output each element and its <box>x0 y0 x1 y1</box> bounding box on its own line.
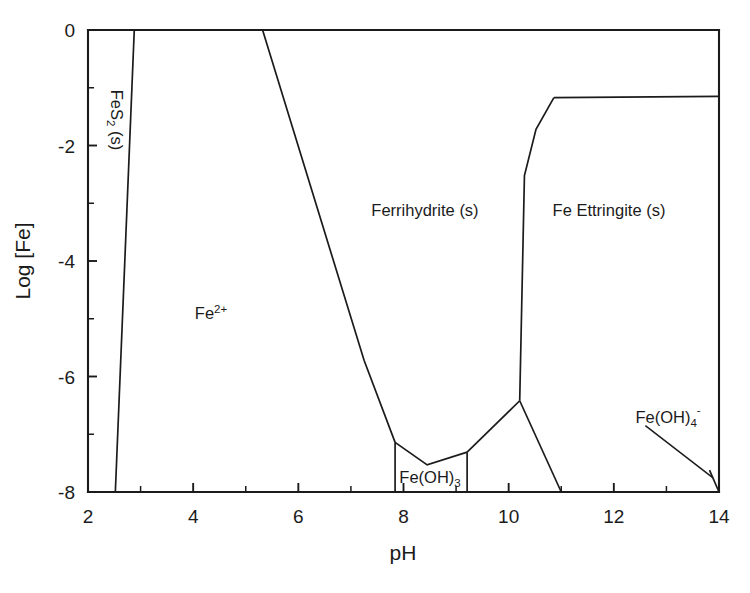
region-label-fes2: FeS2 (s) <box>105 90 126 151</box>
chart-canvas: 24681012140-2-4-6-8 pH Log [Fe] FeS2 (s)… <box>0 0 750 593</box>
ferrihydrite-feoh3-boundary <box>395 442 467 465</box>
feoh4-leader <box>645 426 712 478</box>
region-label-feoh4-superscript: - <box>697 404 701 416</box>
fe2plus-ferrihydrite-boundary <box>263 30 396 442</box>
y-tick-label: -4 <box>58 251 75 272</box>
x-axis-title: pH <box>390 541 417 564</box>
y-tick-label: -8 <box>58 482 75 503</box>
svg-text:Fe(OH)4-: Fe(OH)4- <box>635 404 700 429</box>
y-tick-label: -2 <box>58 136 75 157</box>
ferrihydrite-ettringite-lower-boundary <box>467 401 520 452</box>
annotation-leader-line <box>645 426 712 478</box>
x-tick-label: 2 <box>83 506 94 527</box>
region-label-fe2plus: Fe2+ <box>195 303 228 322</box>
region-label-fes2-state: (s) <box>108 126 126 150</box>
svg-text:Fe2+: Fe2+ <box>195 303 228 322</box>
svg-text:Fe(OH)3: Fe(OH)3 <box>399 468 460 489</box>
region-label-feoh3: Fe(OH)3 <box>399 468 460 489</box>
x-tick-label: 6 <box>293 506 304 527</box>
stability-diagram-figure: 24681012140-2-4-6-8 pH Log [Fe] FeS2 (s)… <box>0 0 750 593</box>
region-label-feoh4-subscript: 4 <box>690 417 697 429</box>
ettringite-feoh4-boundary <box>520 401 562 492</box>
axis-ticks <box>88 30 719 492</box>
region-label-feoh3-subscript: 3 <box>454 477 460 489</box>
region-label-fe2plus-superscript: 2+ <box>214 303 227 315</box>
region-label-feoh3-base: Fe(OH) <box>399 468 454 486</box>
y-axis-title: Log [Fe] <box>11 222 34 299</box>
region-label-fe-ettringite: Fe Ettringite (s) <box>553 201 666 219</box>
y-tick-label: 0 <box>64 20 75 41</box>
x-tick-label: 10 <box>498 506 519 527</box>
x-tick-label: 8 <box>398 506 409 527</box>
svg-text:FeS2 (s): FeS2 (s) <box>105 90 126 151</box>
feoh4-wedge-boundary <box>710 470 719 492</box>
region-label-fe2plus-base: Fe <box>195 304 214 322</box>
region-label-feoh4minus: Fe(OH)4- <box>635 404 700 429</box>
ettringite-top-boundary <box>554 96 719 97</box>
region-label-ferrihydrite: Ferrihydrite (s) <box>371 201 478 219</box>
phase-boundaries <box>115 30 719 492</box>
y-tick-label: -6 <box>58 367 75 388</box>
x-tick-label: 12 <box>603 506 624 527</box>
x-tick-label: 14 <box>708 506 730 527</box>
ettringite-left-boundary <box>520 98 554 401</box>
region-label-fes2-base: FeS <box>108 90 126 120</box>
region-label-feoh4-base: Fe(OH) <box>635 408 690 426</box>
x-tick-label: 4 <box>188 506 199 527</box>
axis-tick-labels: 24681012140-2-4-6-8 <box>58 20 730 527</box>
axis-frame <box>88 30 719 492</box>
